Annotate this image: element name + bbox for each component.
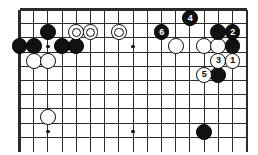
stone-white[interactable]	[40, 53, 56, 69]
stone-white[interactable]	[168, 38, 184, 54]
move-stone-5[interactable]: 5	[196, 67, 212, 83]
go-board-diagram: 123456	[0, 0, 258, 155]
stone-black[interactable]	[210, 67, 226, 83]
stone-black[interactable]	[40, 24, 56, 40]
star-point-upper-left	[46, 45, 50, 49]
star-point-upper-center	[131, 45, 135, 49]
stone-black[interactable]	[196, 124, 212, 140]
stone-white[interactable]	[111, 24, 127, 40]
stone-move-number: 4	[188, 14, 193, 23]
stone-move-number: 3	[216, 56, 221, 65]
stone-move-number: 5	[202, 70, 207, 79]
move-stone-3[interactable]: 3	[210, 53, 226, 69]
stone-black[interactable]	[26, 38, 42, 54]
stone-move-number: 2	[230, 28, 235, 37]
move-stone-1[interactable]: 1	[225, 53, 241, 69]
move-stone-4[interactable]: 4	[182, 10, 198, 26]
stone-move-number: 1	[230, 56, 235, 65]
stone-move-number: 6	[159, 28, 164, 37]
